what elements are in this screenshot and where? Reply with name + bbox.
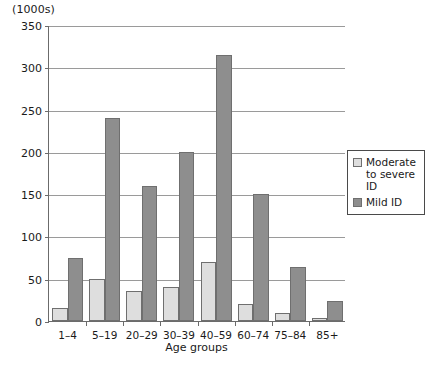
x-axis-tick-label: 30–39 xyxy=(163,329,195,341)
x-axis-tick-mark xyxy=(309,321,310,326)
x-axis-tick-mark xyxy=(198,321,199,326)
x-axis-ticks: 1–45–1920–2930–3940–5960–7475–8485+ xyxy=(49,26,345,321)
y-axis-tick-label: 250 xyxy=(21,104,42,117)
y-axis-tick-label: 350 xyxy=(21,20,42,33)
plot-area: 050100150200250300350 1–45–1920–2930–394… xyxy=(48,26,345,322)
legend-item[interactable]: Mild ID xyxy=(353,196,420,208)
bar-chart: (1000s) 050100150200250300350 1–45–1920–… xyxy=(0,0,431,367)
x-axis-title: Age groups xyxy=(48,341,345,354)
units-label: (1000s) xyxy=(12,3,55,16)
x-axis-tick-mark xyxy=(272,321,273,326)
x-axis-tick-label: 60–74 xyxy=(237,329,269,341)
x-axis-tick-label: 20–29 xyxy=(126,329,158,341)
y-axis-tick-label: 300 xyxy=(21,62,42,75)
x-axis-tick-mark xyxy=(123,321,124,326)
y-axis-tick-label: 100 xyxy=(21,231,42,244)
legend-label: Mild ID xyxy=(366,196,402,208)
x-axis-tick-label: 1–4 xyxy=(58,329,77,341)
x-axis-tick-mark xyxy=(235,321,236,326)
y-axis-tick-label: 150 xyxy=(21,189,42,202)
x-axis-tick-label: 40–59 xyxy=(200,329,232,341)
y-axis-tick-label: 0 xyxy=(35,316,42,329)
legend-swatch-moderate-to-severe-id xyxy=(353,158,362,167)
legend-label: Moderate to severe ID xyxy=(366,156,420,192)
x-axis-tick-label: 75–84 xyxy=(274,329,306,341)
x-axis-tick-label: 5–19 xyxy=(92,329,117,341)
x-axis-tick-label: 85+ xyxy=(316,329,338,341)
legend-swatch-mild-id xyxy=(353,198,362,207)
x-axis-tick-mark xyxy=(160,321,161,326)
y-axis-tick-label: 50 xyxy=(28,273,42,286)
y-axis-tick-mark xyxy=(45,322,49,323)
legend: Moderate to severe ID Mild ID xyxy=(347,150,425,215)
x-axis-tick-mark xyxy=(86,321,87,326)
legend-item[interactable]: Moderate to severe ID xyxy=(353,156,420,192)
y-axis-tick-label: 200 xyxy=(21,146,42,159)
